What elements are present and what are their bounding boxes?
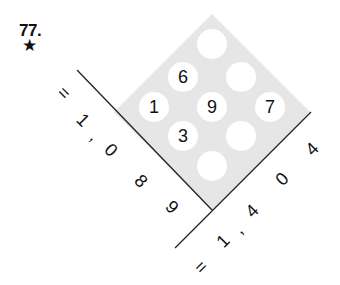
cell-top[interactable]: [197, 29, 227, 59]
svg-text:1: 1: [149, 97, 159, 117]
svg-text:1: 1: [212, 230, 233, 251]
svg-text:0: 0: [271, 168, 292, 189]
cell-center[interactable]: 9: [197, 92, 227, 122]
cell-lower-left[interactable]: 3: [168, 121, 198, 151]
cell-bottom[interactable]: [197, 151, 227, 181]
svg-text:4: 4: [301, 138, 322, 159]
svg-text:0: 0: [100, 139, 121, 160]
svg-text:9: 9: [207, 97, 217, 117]
cell-upper-right[interactable]: [226, 62, 256, 92]
svg-text:=: =: [190, 256, 212, 278]
svg-text:,: ,: [86, 127, 104, 145]
number-diamond-diagram: 6 1 9 7 3 = 1 , 0 8 9 = 1 , 4: [0, 0, 340, 285]
svg-text:4: 4: [241, 200, 262, 221]
cell-left[interactable]: 1: [139, 92, 169, 122]
cell-right[interactable]: 7: [255, 92, 285, 122]
cell-lower-right[interactable]: [226, 121, 256, 151]
svg-text:3: 3: [178, 126, 188, 146]
svg-text:8: 8: [130, 170, 151, 191]
svg-text:7: 7: [265, 97, 275, 117]
svg-text:,: ,: [229, 220, 247, 238]
cell-upper-left[interactable]: 6: [168, 62, 198, 92]
svg-text:9: 9: [161, 196, 182, 217]
svg-text:6: 6: [178, 67, 188, 87]
svg-text:=: =: [53, 82, 75, 104]
svg-text:1: 1: [72, 109, 93, 130]
